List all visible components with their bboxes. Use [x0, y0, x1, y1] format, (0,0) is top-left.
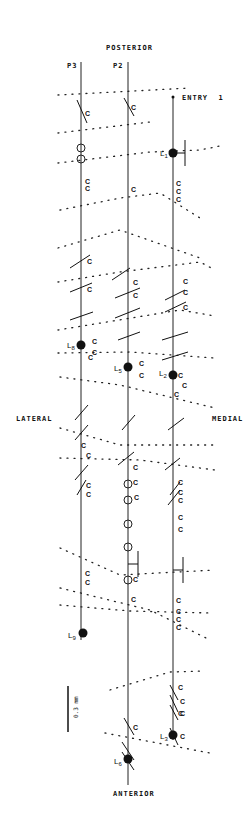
c-markers: CC CC C CCC CC CC CCC CCC CCC CC CCC CC …: [81, 104, 188, 740]
svg-text:C: C: [133, 464, 138, 471]
svg-text:C: C: [139, 372, 144, 379]
svg-text:C: C: [176, 597, 181, 604]
svg-text:C: C: [182, 382, 187, 389]
open-circle-markers: [77, 144, 132, 584]
svg-text:C: C: [86, 482, 91, 489]
svg-text:L5: L5: [114, 364, 122, 374]
svg-text:L9: L9: [68, 631, 76, 641]
svg-text:C: C: [174, 391, 179, 398]
svg-text:C: C: [85, 178, 90, 185]
svg-text:C: C: [85, 110, 90, 117]
svg-text:C: C: [88, 354, 93, 361]
svg-text:C: C: [133, 279, 138, 286]
svg-text:C: C: [176, 180, 181, 187]
svg-text:C: C: [92, 338, 97, 345]
svg-text:L6: L6: [114, 757, 122, 767]
svg-text:C: C: [85, 579, 90, 586]
svg-text:C: C: [131, 104, 136, 111]
svg-text:C: C: [176, 624, 181, 631]
electrode-track-diagram: L1 L8 L5 L2 L9 L6 L3 CC CC C CCC CC CC C…: [0, 0, 250, 827]
svg-text:C: C: [131, 186, 136, 193]
svg-text:C: C: [176, 196, 181, 203]
svg-text:C: C: [178, 372, 183, 379]
boundary-lines: [58, 88, 220, 754]
svg-text:L1: L1: [160, 149, 168, 159]
svg-text:C: C: [183, 278, 188, 285]
svg-text:C: C: [81, 442, 86, 449]
svg-text:C: C: [176, 608, 181, 615]
svg-text:C: C: [178, 497, 183, 504]
svg-text:C: C: [87, 286, 92, 293]
svg-text:L3: L3: [160, 732, 168, 742]
svg-text:C: C: [178, 684, 183, 691]
svg-text:L8: L8: [67, 341, 75, 351]
svg-text:C: C: [176, 616, 181, 623]
svg-text:C: C: [178, 514, 183, 521]
entry-point: [172, 96, 175, 99]
svg-text:C: C: [87, 258, 92, 265]
svg-text:C: C: [178, 479, 183, 486]
svg-text:C: C: [86, 452, 91, 459]
svg-text:C: C: [133, 479, 138, 486]
svg-text:C: C: [180, 733, 185, 740]
svg-text:C: C: [85, 570, 90, 577]
svg-text:C: C: [178, 489, 183, 496]
scale-bar-label: 0.3 mm: [72, 696, 79, 718]
svg-text:C: C: [131, 596, 136, 603]
svg-text:C: C: [86, 491, 91, 498]
svg-text:C: C: [134, 494, 139, 501]
svg-text:C: C: [180, 698, 185, 705]
svg-text:C: C: [176, 188, 181, 195]
svg-text:C: C: [178, 526, 183, 533]
lesions: [77, 149, 178, 764]
svg-text:C: C: [133, 292, 138, 299]
svg-text:C: C: [183, 289, 188, 296]
svg-text:C: C: [85, 185, 90, 192]
svg-text:C: C: [183, 304, 188, 311]
svg-text:C: C: [133, 576, 138, 583]
svg-text:C: C: [139, 360, 144, 367]
svg-text:C: C: [133, 724, 138, 731]
svg-text:C: C: [178, 710, 183, 717]
bracket-markers: [128, 140, 185, 583]
svg-text:L2: L2: [159, 369, 167, 379]
